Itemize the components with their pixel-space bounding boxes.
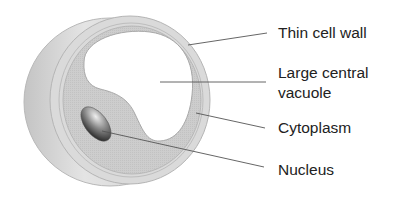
- plant-cell-diagram: Thin cell wall Large central vacuole Cyt…: [0, 0, 406, 201]
- label-cell-wall: Thin cell wall: [278, 24, 367, 41]
- label-nucleus: Nucleus: [278, 161, 334, 178]
- label-vacuole-line2: vacuole: [278, 84, 331, 101]
- leader-line-cell-wall: [188, 33, 267, 45]
- label-vacuole-line1: Large central: [278, 64, 368, 81]
- label-cytoplasm: Cytoplasm: [278, 119, 351, 136]
